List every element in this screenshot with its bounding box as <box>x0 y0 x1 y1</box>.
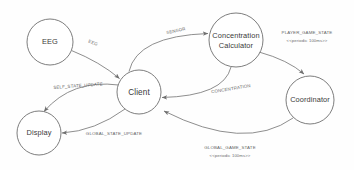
edge-path-client-to-concentration <box>129 34 208 72</box>
node-concentration-calculator-label-line2: Calculator <box>219 41 254 50</box>
node-eeg[interactable]: EEG <box>27 19 73 65</box>
edge-path-client-to-display-global <box>62 109 125 133</box>
edge-label-eeg-to-client: EEG <box>88 39 99 47</box>
node-coordinator[interactable]: Coordinator <box>286 76 334 124</box>
node-display-label: Display <box>27 128 52 137</box>
edge-label-player-game-state: PLAYER_GAME_STATE <box>282 30 333 35</box>
node-concentration-calculator-label-line1: Concentration <box>212 31 259 40</box>
edge-stereotype-global-game-state: <<periodic 100ms>> <box>210 153 251 158</box>
edge-eeg-to-client: EEG <box>72 39 120 79</box>
edge-label-client-to-concentration: SENSOR <box>166 26 186 35</box>
node-client-label: Client <box>128 88 150 97</box>
edge-path-coordinator-to-client <box>164 111 293 133</box>
edge-client-to-display-global: GLOBAL_STATE_UPDATE <box>62 109 142 136</box>
edge-coordinator-to-client: GLOBAL_GAME_STATE <<periodic 100ms>> <box>164 111 293 158</box>
edge-path-eeg-to-client <box>72 51 120 79</box>
node-coordinator-label: Coordinator <box>290 95 330 104</box>
edge-concentration-to-coordinator: PLAYER_GAME_STATE <<periodic 100ms>> <box>259 30 332 74</box>
edge-label-global-game-state: GLOBAL_GAME_STATE <box>204 145 255 150</box>
diagram-svg: EEG SENSOR CONCENTRATION PLAYER_GAME_STA… <box>0 0 354 170</box>
node-display[interactable]: Display <box>17 111 61 155</box>
diagram-canvas: EEG SENSOR CONCENTRATION PLAYER_GAME_STA… <box>0 0 354 170</box>
node-concentration-calculator[interactable]: Concentration Calculator <box>209 13 263 67</box>
edge-stereotype-player-game-state: <<periodic 100ms>> <box>287 38 328 43</box>
edge-label-global-state-update: GLOBAL_STATE_UPDATE <box>86 131 142 136</box>
edge-path-concentration-to-client <box>162 67 231 98</box>
edge-concentration-to-client: CONCENTRATION <box>162 67 251 98</box>
edge-client-to-display-self: SELF_STATE_UPDATE <box>44 81 119 111</box>
node-client[interactable]: Client <box>117 70 161 114</box>
edge-client-to-concentration: SENSOR <box>129 26 208 71</box>
node-eeg-label: EEG <box>42 37 58 46</box>
edge-label-concentration-to-client: CONCENTRATION <box>211 83 251 94</box>
edge-path-concentration-to-coordinator <box>259 52 304 74</box>
